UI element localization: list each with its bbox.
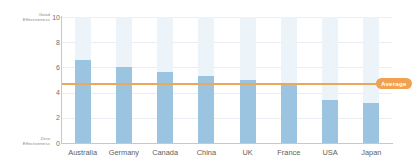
y-axis-tick-label: 6: [46, 64, 60, 71]
average-badge: Average: [376, 78, 412, 89]
y-axis-tick-label: 10: [46, 14, 60, 21]
y-axis-tick-label: 0: [46, 140, 60, 147]
x-axis-category-label: China: [186, 148, 227, 157]
bar-value: [198, 76, 214, 143]
bar-column[interactable]: [281, 17, 297, 143]
bar-value: [240, 80, 256, 143]
x-axis-category-label: UK: [227, 148, 268, 157]
plot-area: [62, 17, 392, 143]
gridline: [62, 118, 392, 119]
y-axis: 1086420: [40, 0, 60, 168]
x-axis-line: [61, 143, 393, 144]
x-axis-category-label: USA: [310, 148, 351, 157]
bar-value: [75, 60, 91, 143]
x-axis-category-label: Australia: [62, 148, 103, 157]
y-axis-tick-label: 4: [46, 89, 60, 96]
gridline: [62, 42, 392, 43]
bar-column[interactable]: [198, 17, 214, 143]
gridline: [62, 17, 392, 18]
bar-column[interactable]: [157, 17, 173, 143]
bar-column[interactable]: [240, 17, 256, 143]
bar-value: [363, 103, 379, 143]
x-axis-category-label: Germany: [103, 148, 144, 157]
bar-column[interactable]: [75, 17, 91, 143]
bar-value: [322, 100, 338, 143]
y-axis-tick-label: 2: [46, 114, 60, 121]
y-axis-tick-label: 8: [46, 39, 60, 46]
x-axis-category-label: France: [268, 148, 309, 157]
x-axis-category-label: Canada: [145, 148, 186, 157]
bar-column[interactable]: [116, 17, 132, 143]
bar-column[interactable]: [322, 17, 338, 143]
gridline: [62, 93, 392, 94]
bar-value: [116, 67, 132, 143]
gridline: [62, 67, 392, 68]
x-axis-category-label: Japan: [351, 148, 392, 157]
bar-value: [281, 85, 297, 143]
average-reference-line: [62, 83, 382, 85]
